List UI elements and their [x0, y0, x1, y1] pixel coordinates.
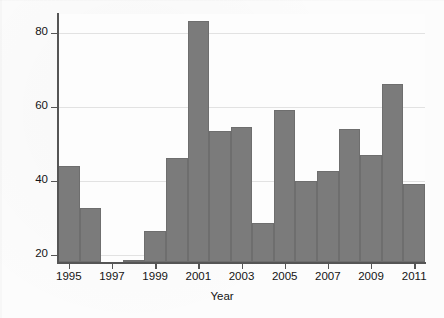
x-tick-mark-2009	[371, 263, 372, 269]
x-tick-mark-2001	[198, 263, 199, 269]
bar-2001	[188, 21, 210, 262]
x-tick-mark-2011	[414, 263, 415, 269]
y-tick-label-80: 80	[4, 25, 48, 37]
bar-2011	[403, 184, 425, 262]
x-tick-mark-1995	[69, 263, 70, 269]
y-tick-mark-80	[51, 33, 58, 34]
y-tick-label-20: 20	[4, 247, 48, 259]
plot-area	[58, 14, 425, 262]
x-tick-mark-2007	[328, 263, 329, 269]
x-tick-mark-1999	[155, 263, 156, 269]
bar-1996	[80, 208, 102, 262]
y-tick-mark-40	[51, 181, 58, 182]
y-tick-label-40: 40	[4, 173, 48, 185]
bar-1999	[144, 231, 166, 262]
bar-2007	[317, 171, 339, 262]
x-tick-mark-2003	[242, 263, 243, 269]
bar-2004	[252, 223, 274, 262]
gridline-y-80	[58, 33, 425, 34]
x-axis-title: Year	[0, 290, 444, 302]
x-tick-mark-2005	[285, 263, 286, 269]
bar-2009	[360, 155, 382, 262]
y-tick-20: 20	[0, 255, 48, 256]
x-tick-label-2011: 2011	[389, 270, 439, 282]
bar-2005	[274, 110, 296, 262]
y-tick-label-60: 60	[4, 99, 48, 111]
y-tick-mark-20	[51, 255, 58, 256]
bar-1995	[58, 166, 80, 262]
bar-2008	[339, 129, 361, 262]
x-tick-mark-1997	[112, 263, 113, 269]
y-tick-mark-60	[51, 107, 58, 108]
bar-2000	[166, 158, 188, 262]
bar-chart: Percentage of complainants that are high…	[0, 0, 444, 318]
y-tick-60: 60	[0, 107, 48, 108]
bar-2006	[295, 181, 317, 262]
bar-2003	[231, 127, 253, 262]
gridline-y-60	[58, 107, 425, 108]
bar-2010	[382, 84, 404, 262]
y-tick-40: 40	[0, 181, 48, 182]
y-tick-80: 80	[0, 33, 48, 34]
bar-2002	[209, 131, 231, 262]
y-axis-line	[57, 13, 59, 263]
